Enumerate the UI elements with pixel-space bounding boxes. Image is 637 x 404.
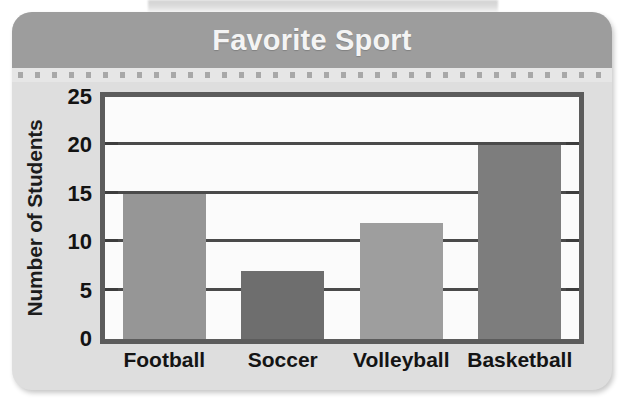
- chart-screenshot: Favorite Sport Number of Students 051015…: [0, 0, 637, 404]
- x-label-football: Football: [123, 348, 205, 372]
- bar-football: [123, 194, 206, 339]
- y-axis-tick-labels: 0510152025: [50, 92, 96, 344]
- bar-volleyball: [360, 223, 443, 339]
- dotted-divider: [12, 68, 612, 82]
- x-label-basketball: Basketball: [467, 348, 572, 372]
- x-label-volleyball: Volleyball: [353, 348, 449, 372]
- scan-artifact: [148, 0, 498, 12]
- chart-title-band: Favorite Sport: [12, 12, 612, 68]
- chart-title: Favorite Sport: [212, 24, 411, 57]
- plot-frame: [100, 92, 584, 344]
- chart-plot-area: Number of Students 0510152025 FootballSo…: [12, 82, 612, 390]
- y-axis-title-label: Number of Students: [23, 119, 47, 316]
- y-tick-label-15: 15: [68, 181, 92, 207]
- bar-soccer: [241, 271, 324, 339]
- x-label-soccer: Soccer: [248, 348, 318, 372]
- chart-card: Favorite Sport Number of Students 051015…: [12, 12, 612, 390]
- x-axis-category-labels: FootballSoccerVolleyballBasketball: [100, 348, 584, 388]
- y-tick-label-5: 5: [80, 278, 92, 304]
- dotted-divider-dots: [18, 72, 606, 78]
- y-axis-title: Number of Students: [18, 92, 52, 344]
- bars-layer: [105, 97, 579, 339]
- y-tick-label-10: 10: [68, 229, 92, 255]
- y-tick-label-20: 20: [68, 132, 92, 158]
- bar-basketball: [478, 145, 561, 339]
- y-tick-label-0: 0: [80, 326, 92, 352]
- plot-inner: [105, 97, 579, 339]
- y-tick-label-25: 25: [68, 84, 92, 110]
